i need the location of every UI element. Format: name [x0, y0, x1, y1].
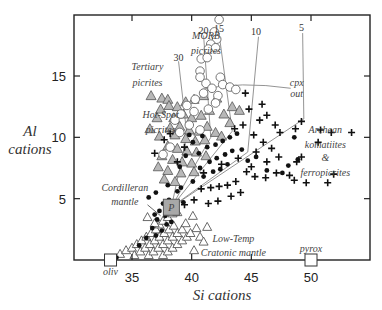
scatter-chart: 3540455051015 MORBpicritesTertiarypicrit…: [0, 0, 382, 310]
data-point-cordilleran: [227, 135, 232, 140]
data-point-cordilleran: [175, 189, 180, 194]
y-axis-title-line1: Al: [22, 123, 36, 139]
melt-fraction-label: 20: [199, 25, 209, 36]
data-point-cordilleran: [153, 233, 158, 238]
data-point-morb: [159, 150, 168, 159]
data-point-cordilleran: [144, 236, 149, 241]
data-point-archean: [262, 174, 269, 181]
data-point-archean: [348, 129, 355, 136]
annotation-label: Cratonic mantle: [201, 247, 267, 258]
data-point-cratonic: [143, 213, 152, 221]
data-point-cordilleran: [155, 217, 160, 222]
annotation-label: Cordilleran: [101, 182, 148, 193]
data-point-archean: [273, 169, 280, 176]
data-point-cordilleran: [201, 174, 206, 179]
data-point-morb: [211, 99, 220, 108]
data-point-cordilleran: [230, 148, 235, 153]
data-point-cordilleran: [153, 190, 158, 195]
data-point-picrite: [146, 91, 156, 100]
data-point-cratonic: [203, 222, 212, 230]
data-point-archean: [272, 122, 279, 129]
data-point-cordilleran: [239, 147, 244, 152]
annotation-label: out: [290, 88, 303, 99]
melt-fraction-label: 10: [251, 26, 261, 37]
annotation-label: picrites: [132, 77, 163, 88]
y-tick-label: 5: [59, 192, 66, 207]
data-point-picrite: [170, 176, 180, 185]
data-point-morb: [175, 128, 184, 137]
data-point-cordilleran: [218, 167, 223, 172]
data-point-archean: [303, 179, 310, 186]
data-point-cordilleran: [164, 222, 169, 227]
data-point-archean: [207, 184, 214, 191]
data-point-cordilleran: [150, 226, 155, 231]
y-axis-title-line2: cations: [8, 141, 51, 157]
data-point-archean: [263, 112, 270, 119]
olivine-endmember-box: [105, 254, 117, 266]
data-point-cordilleran: [245, 158, 250, 163]
x-tick-label: 50: [304, 270, 318, 285]
annotation-label: Tertiary: [132, 61, 164, 72]
x-tick-label: 35: [125, 270, 139, 285]
melt-fraction-label: 30: [174, 52, 184, 63]
data-point-cordilleran: [207, 159, 212, 164]
data-point-cordilleran: [235, 131, 240, 136]
data-point-morb: [204, 105, 213, 114]
data-point-archean: [218, 161, 225, 168]
data-point-picrite: [187, 158, 197, 167]
data-point-cordilleran: [198, 166, 203, 171]
data-point-cratonic: [188, 211, 197, 219]
data-point-cordilleran: [223, 152, 228, 157]
data-point-archean: [239, 122, 246, 129]
annotation-label: P: [167, 202, 174, 213]
melt-fraction-label: 15: [214, 23, 224, 34]
data-point-archean: [250, 131, 257, 138]
data-point-archean: [243, 168, 250, 175]
data-point-cordilleran: [196, 151, 201, 156]
data-point-cordilleran: [225, 162, 230, 167]
data-point-archean: [276, 129, 283, 136]
data-point-cordilleran: [214, 156, 219, 161]
data-point-cordilleran: [137, 243, 142, 248]
annotation-label: oliv: [103, 266, 119, 277]
data-point-cordilleran: [187, 132, 192, 137]
data-point-cordilleran: [254, 155, 259, 160]
data-point-cordilleran: [146, 195, 151, 200]
data-point-cordilleran: [286, 163, 291, 168]
annotation-label: pyrox: [299, 243, 323, 254]
data-point-archean: [268, 145, 275, 152]
data-point-morb: [185, 121, 194, 130]
data-point-cordilleran: [181, 200, 186, 205]
annotation-label: picrites: [145, 124, 176, 135]
data-point-archean: [228, 193, 235, 200]
annotations: MORBpicritesTertiarypicritesHot-Spotpicr…: [101, 22, 350, 277]
data-point-morb: [232, 85, 241, 94]
data-point-archean: [214, 198, 221, 205]
data-point-morb: [208, 84, 217, 93]
data-point-cordilleran: [205, 145, 210, 150]
x-axis-title: Si cations: [193, 287, 252, 303]
data-point-archean: [232, 178, 239, 185]
data-point-archean: [251, 173, 258, 180]
data-point-archean: [205, 200, 212, 207]
data-point-archean: [237, 189, 244, 196]
annotation-label: picrites: [190, 45, 221, 56]
data-point-cordilleran: [190, 179, 195, 184]
data-point-cordilleran: [152, 212, 157, 217]
data-points: [114, 15, 355, 260]
data-point-cordilleran: [159, 228, 164, 233]
data-point-morb: [190, 107, 199, 116]
data-point-picrite: [159, 174, 169, 183]
y-tick-label: 10: [52, 130, 66, 145]
x-tick-label: 45: [244, 270, 258, 285]
data-point-morb: [183, 101, 192, 110]
annotation-label: ferropicrites: [301, 167, 351, 178]
data-point-archean: [291, 177, 298, 184]
data-point-morb: [191, 95, 200, 104]
x-tick-label: 40: [184, 270, 198, 285]
data-point-cordilleran: [292, 135, 297, 140]
data-point-cordilleran: [190, 140, 195, 145]
data-point-archean: [286, 172, 293, 179]
data-point-cordilleran: [183, 153, 188, 158]
data-point-archean: [263, 158, 270, 165]
